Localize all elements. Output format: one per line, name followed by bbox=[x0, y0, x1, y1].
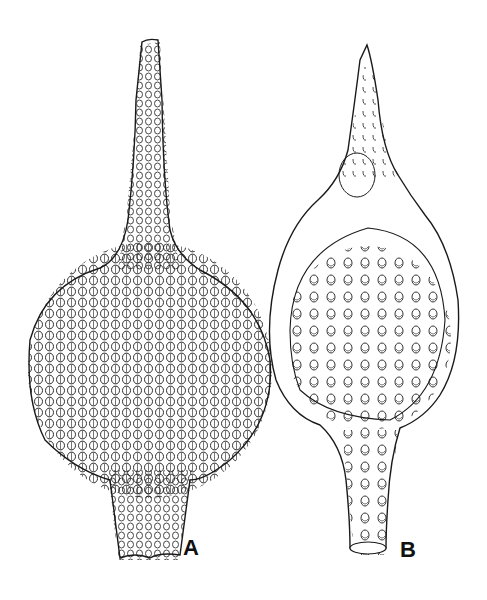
specimen-b bbox=[269, 40, 460, 560]
panel-label-a: A bbox=[183, 535, 199, 561]
panel-label-b: B bbox=[400, 537, 416, 563]
figure: A B bbox=[0, 0, 487, 600]
specimen-a bbox=[25, 39, 275, 570]
specimen-b-aperture bbox=[350, 542, 386, 554]
specimen-drawings bbox=[0, 0, 487, 600]
